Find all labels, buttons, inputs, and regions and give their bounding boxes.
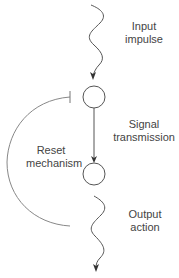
label-output-action: Output action <box>124 208 166 234</box>
label-reset-line2: mechanism <box>26 157 76 170</box>
label-signal-transmission: Signal transmission <box>110 118 178 144</box>
label-reset-line1: Reset <box>26 144 76 157</box>
node-2-circle <box>83 163 105 185</box>
label-output-line1: Output <box>124 208 166 221</box>
label-signal-line2: transmission <box>110 131 178 144</box>
input-arrowhead-icon <box>90 72 96 80</box>
label-input-line1: Input <box>124 20 164 33</box>
node-1-circle <box>83 86 105 108</box>
output-wavy-arrow <box>91 196 105 268</box>
label-input-impulse: Input impulse <box>124 20 164 46</box>
input-wavy-arrow <box>89 5 103 76</box>
label-input-line2: impulse <box>124 33 164 46</box>
label-output-line2: action <box>124 221 166 234</box>
label-reset-mechanism: Reset mechanism <box>26 144 76 170</box>
label-signal-line1: Signal <box>110 118 178 131</box>
